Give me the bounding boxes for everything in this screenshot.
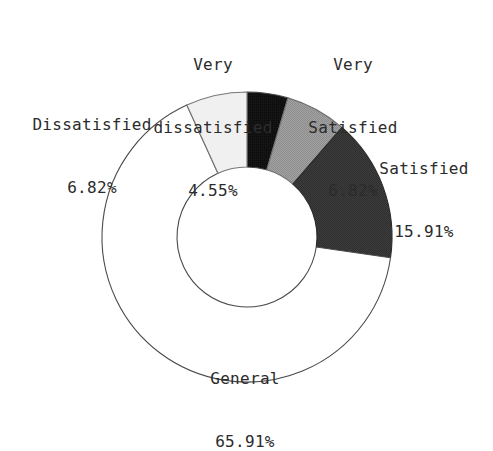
slice-label-general: General 65.91% (172, 326, 318, 451)
slice-label-general-line1: General (172, 368, 318, 389)
slice-label-dissatisfied: Dissatisfied 6.82% (12, 72, 172, 240)
slice-label-dissatisfied-line1: Dissatisfied (12, 114, 172, 135)
slice-label-very-satisfied-line1: Very (288, 54, 418, 75)
slice-label-satisfied: Satisfied 15.91% (358, 116, 490, 284)
slice-value-satisfied: 15.91% (358, 221, 490, 242)
slice-value-general: 65.91% (172, 431, 318, 451)
slice-value-dissatisfied: 6.82% (12, 177, 172, 198)
slice-label-satisfied-line1: Satisfied (358, 158, 490, 179)
